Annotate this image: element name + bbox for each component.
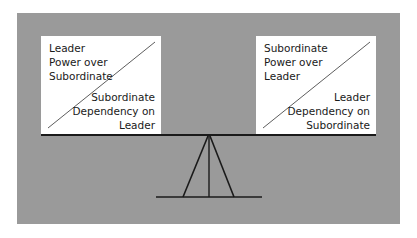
fulcrum-left-leg (183, 136, 208, 197)
fulcrum-right-leg (210, 136, 234, 197)
seesaw-scale (0, 0, 417, 238)
